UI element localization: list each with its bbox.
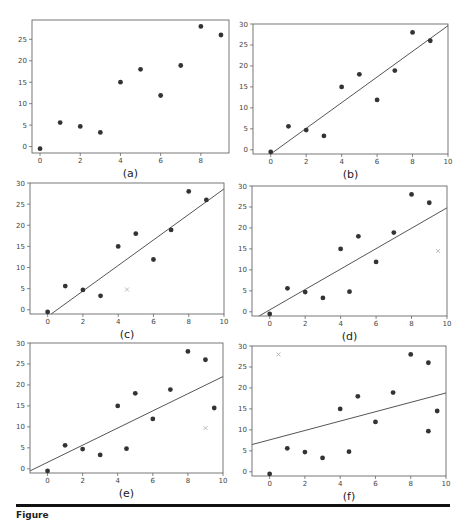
data-point xyxy=(178,63,183,68)
data-point xyxy=(391,230,396,235)
x-tick-label: 2 xyxy=(81,318,85,326)
data-point xyxy=(98,130,103,135)
data-point xyxy=(426,360,431,365)
plot-frame xyxy=(30,183,224,314)
data-point xyxy=(78,124,83,129)
x-tick-label: 6 xyxy=(375,158,380,166)
data-point xyxy=(186,189,191,194)
x-tick-label: 8 xyxy=(410,158,414,166)
y-tick-label: 30 xyxy=(16,180,25,188)
data-point xyxy=(391,390,396,395)
data-point xyxy=(98,453,103,458)
plot-frame xyxy=(252,346,446,476)
y-tick-label: 20 xyxy=(238,384,247,392)
y-tick-label: 5 xyxy=(23,122,27,130)
data-point xyxy=(150,417,155,422)
data-point xyxy=(355,394,360,399)
subplot-a: 024680510152025(a) xyxy=(18,20,229,180)
data-point xyxy=(115,404,120,409)
data-point xyxy=(338,247,343,252)
data-point xyxy=(98,293,103,298)
data-point xyxy=(303,290,308,295)
panel-label: (d) xyxy=(342,330,358,343)
data-point xyxy=(45,469,50,474)
data-point xyxy=(118,80,123,85)
data-point xyxy=(374,260,379,265)
data-point xyxy=(427,200,432,205)
plot-frame xyxy=(30,343,223,473)
y-tick-label: 15 xyxy=(238,405,247,413)
data-point xyxy=(80,447,85,452)
x-tick-label: 4 xyxy=(115,477,120,485)
y-tick-label: 5 xyxy=(244,125,248,133)
data-point xyxy=(58,120,63,125)
x-tick-label: 8 xyxy=(186,477,190,485)
data-point xyxy=(321,296,326,301)
y-tick-label: 30 xyxy=(238,343,247,351)
panel-label: (a) xyxy=(123,167,138,180)
y-tick-label: 10 xyxy=(18,100,27,108)
data-point xyxy=(212,406,217,411)
panel-label: (f) xyxy=(343,490,355,503)
data-point xyxy=(198,24,203,29)
data-point xyxy=(356,234,361,239)
y-tick-label: 15 xyxy=(18,79,27,87)
subplot-f: 0246810051015202530(f) xyxy=(238,343,450,504)
x-tick-label: 2 xyxy=(303,320,307,328)
data-point xyxy=(138,67,143,72)
data-point xyxy=(268,150,273,155)
panel-label: (c) xyxy=(120,328,135,341)
data-point xyxy=(347,289,352,294)
x-tick-label: 10 xyxy=(220,318,229,326)
data-point xyxy=(304,128,309,133)
data-point xyxy=(186,349,191,354)
y-tick-label: 15 xyxy=(239,83,248,91)
figure-svg: 024680510152025(a)0246810051015202530(b)… xyxy=(0,0,466,520)
y-tick-label: 20 xyxy=(16,381,25,389)
y-tick-label: 5 xyxy=(243,287,247,295)
data-point xyxy=(158,93,163,98)
y-tick-label: 10 xyxy=(16,423,25,431)
y-tick-label: 25 xyxy=(18,36,27,44)
y-tick-label: 30 xyxy=(238,183,247,191)
data-point xyxy=(63,443,68,448)
y-tick-label: 30 xyxy=(239,21,248,29)
subplot-e: 0246810051015202530(e) xyxy=(16,340,227,501)
x-tick-label: 6 xyxy=(158,157,163,165)
data-point xyxy=(338,407,343,412)
subplot-b: 0246810051015202530(b) xyxy=(239,21,452,182)
data-point xyxy=(435,409,440,414)
y-tick-label: 15 xyxy=(16,243,25,251)
x-tick-label: 10 xyxy=(444,158,453,166)
x-tick-label: 10 xyxy=(442,480,451,488)
y-tick-label: 0 xyxy=(21,306,25,314)
data-point xyxy=(428,38,433,43)
data-point xyxy=(347,449,352,454)
y-tick-label: 10 xyxy=(238,266,247,274)
x-tick-label: 8 xyxy=(186,318,190,326)
data-point xyxy=(285,286,290,291)
data-point xyxy=(267,312,272,317)
data-point xyxy=(426,429,431,434)
x-tick-label: 10 xyxy=(443,320,452,328)
y-tick-label: 0 xyxy=(243,468,247,476)
caption-rule xyxy=(16,504,450,507)
x-tick-label: 8 xyxy=(199,157,203,165)
data-point xyxy=(133,231,138,236)
data-point xyxy=(409,192,414,197)
x-tick-label: 8 xyxy=(408,480,412,488)
x-tick-label: 0 xyxy=(267,320,271,328)
data-point xyxy=(45,309,50,314)
data-point xyxy=(322,134,327,139)
data-point xyxy=(286,124,291,129)
data-point xyxy=(303,450,308,455)
y-tick-label: 5 xyxy=(21,444,25,452)
x-tick-label: 6 xyxy=(151,477,156,485)
data-point xyxy=(124,446,129,451)
data-point xyxy=(168,387,173,392)
x-tick-label: 6 xyxy=(374,320,379,328)
y-tick-label: 15 xyxy=(238,245,247,253)
x-tick-label: 2 xyxy=(78,157,82,165)
x-tick-label: 6 xyxy=(151,318,156,326)
y-tick-label: 0 xyxy=(23,143,27,151)
